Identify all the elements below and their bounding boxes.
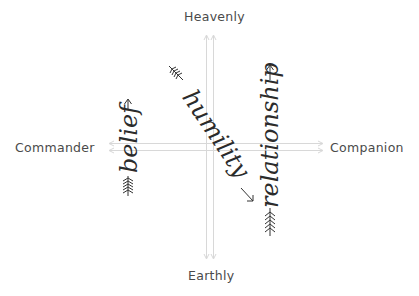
word-relationship: relationship xyxy=(258,78,282,208)
word-belief: belief xyxy=(117,111,141,173)
